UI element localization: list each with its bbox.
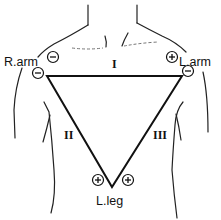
lead-3-label: III [153, 128, 167, 142]
lead-1-label: I [112, 57, 117, 71]
plus-icon-l-leg-lead2 [93, 175, 104, 186]
left-clavicle-line [72, 48, 103, 49]
right-arm-label: R.arm [4, 55, 38, 69]
plus-icon-l-arm-lead1 [167, 52, 178, 63]
minus-icon-l-arm-lead3 [183, 66, 194, 77]
right-clavicle-end [122, 33, 128, 46]
armpit-left-line [43, 115, 50, 142]
left-clavicle-end [105, 36, 106, 47]
einthoven-triangle-diagram: I II III R.arm L.arm L.leg [0, 0, 221, 220]
right-clavicle-line [124, 42, 158, 46]
minus-icon-r-arm-lead2 [33, 68, 44, 79]
plus-icon-l-leg-lead3 [123, 175, 134, 186]
lead-2-label: II [64, 128, 74, 142]
right-shoulder-line [137, 23, 186, 52]
armpit-right-line [176, 114, 181, 140]
left-leg-label: L.leg [96, 194, 123, 208]
right-arm-outer-line [14, 68, 22, 138]
left-shoulder-line [38, 25, 88, 57]
left-arm-outer-line [203, 72, 208, 132]
minus-icon-r-arm-lead1 [48, 52, 59, 63]
diagram-canvas: I II III R.arm L.arm L.leg [0, 0, 221, 220]
